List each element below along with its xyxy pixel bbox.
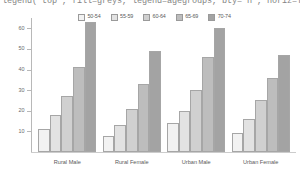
- bar: [179, 111, 191, 152]
- y-tick-label: 30: [19, 88, 25, 93]
- bar: [214, 28, 226, 152]
- x-axis-label: Rural Female: [115, 160, 149, 166]
- bar: [73, 67, 85, 152]
- bar: [138, 84, 150, 152]
- bar-group-rural-male: [38, 18, 97, 152]
- bar: [278, 55, 290, 152]
- y-tick: 10: [27, 131, 31, 132]
- y-tick-label: 50: [19, 47, 25, 52]
- bar-group-rural-female: [103, 18, 162, 152]
- bar-chart: legend("top", fill=greys, legend=agegrou…: [0, 0, 302, 185]
- y-tick-label: 20: [19, 109, 25, 114]
- bar: [255, 100, 267, 152]
- bar: [232, 133, 244, 152]
- y-tick: 20: [27, 111, 31, 112]
- bar: [202, 57, 214, 152]
- x-axis-labels: Rural MaleRural FemaleUrban MaleUrban Fe…: [31, 160, 296, 172]
- bar-group-urban-male: [167, 18, 226, 152]
- x-axis-label: Urban Male: [182, 160, 211, 166]
- bar: [167, 123, 179, 152]
- bar: [85, 22, 97, 152]
- bar-group-urban-female: [232, 18, 291, 152]
- x-axis-label: Rural Male: [54, 160, 81, 166]
- code-line-text: legend("top", fill=greys, legend=agegrou…: [2, 0, 300, 7]
- bar: [103, 136, 115, 152]
- y-tick: 60: [27, 28, 31, 29]
- y-tick: 40: [27, 70, 31, 71]
- bar: [38, 129, 50, 152]
- y-tick-label: 60: [19, 26, 25, 31]
- bar: [149, 51, 161, 152]
- y-tick-label: 40: [19, 67, 25, 72]
- x-axis: [31, 152, 296, 153]
- bar: [126, 109, 138, 152]
- y-tick: 30: [27, 90, 31, 91]
- plot-area: 102030405060: [31, 18, 296, 152]
- bar-groups: [32, 18, 296, 152]
- bar: [243, 119, 255, 152]
- x-axis-label: Urban Female: [243, 160, 278, 166]
- bar: [61, 96, 73, 152]
- bar: [267, 78, 279, 152]
- y-tick: 50: [27, 49, 31, 50]
- bar: [114, 125, 126, 152]
- y-tick-label: 10: [19, 129, 25, 134]
- bar: [190, 90, 202, 152]
- bar: [50, 115, 62, 152]
